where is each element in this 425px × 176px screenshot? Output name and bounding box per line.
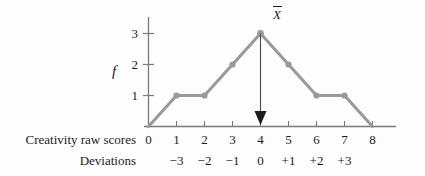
y-axis-title: f xyxy=(112,64,116,79)
raw-score-value-4: 4 xyxy=(251,133,271,146)
data-point-marker xyxy=(285,61,291,67)
raw-score-value-6: 6 xyxy=(307,133,327,146)
mean-symbol-letter: X xyxy=(273,7,281,22)
data-point-marker xyxy=(173,92,179,98)
raw-score-value-2: 2 xyxy=(195,133,215,146)
deviations-row-label: Deviations xyxy=(8,154,136,167)
y-tick-label-3: 3 xyxy=(124,27,138,40)
frequency-polygon-figure: f 3 2 1 X Creativity raw scores Deviatio… xyxy=(0,0,425,176)
data-point-marker xyxy=(341,92,347,98)
deviation-value-plus-1: +1 xyxy=(279,154,299,167)
raw-score-value-0: 0 xyxy=(139,133,159,146)
y-tick-label-2: 2 xyxy=(124,58,138,71)
deviation-value-minus-2: −2 xyxy=(195,154,215,167)
data-point-marker xyxy=(229,61,235,67)
deviation-value-minus-1: −1 xyxy=(223,154,243,167)
deviation-value-plus-2: +2 xyxy=(307,154,327,167)
plot-area xyxy=(0,0,425,176)
data-point-marker xyxy=(313,92,319,98)
deviation-value-minus-3: −3 xyxy=(167,154,187,167)
raw-score-value-1: 1 xyxy=(167,133,187,146)
y-tick-label-1: 1 xyxy=(124,89,138,102)
raw-scores-row-label: Creativity raw scores xyxy=(8,133,136,146)
mean-arrowhead-icon xyxy=(255,111,267,125)
deviation-value-zero: 0 xyxy=(251,154,271,167)
raw-score-value-7: 7 xyxy=(335,133,355,146)
mean-symbol-annotation: X xyxy=(262,6,292,21)
raw-score-value-3: 3 xyxy=(223,133,243,146)
raw-score-value-8: 8 xyxy=(363,133,383,146)
raw-score-value-5: 5 xyxy=(279,133,299,146)
data-point-marker xyxy=(201,92,207,98)
deviation-value-plus-3: +3 xyxy=(335,154,355,167)
